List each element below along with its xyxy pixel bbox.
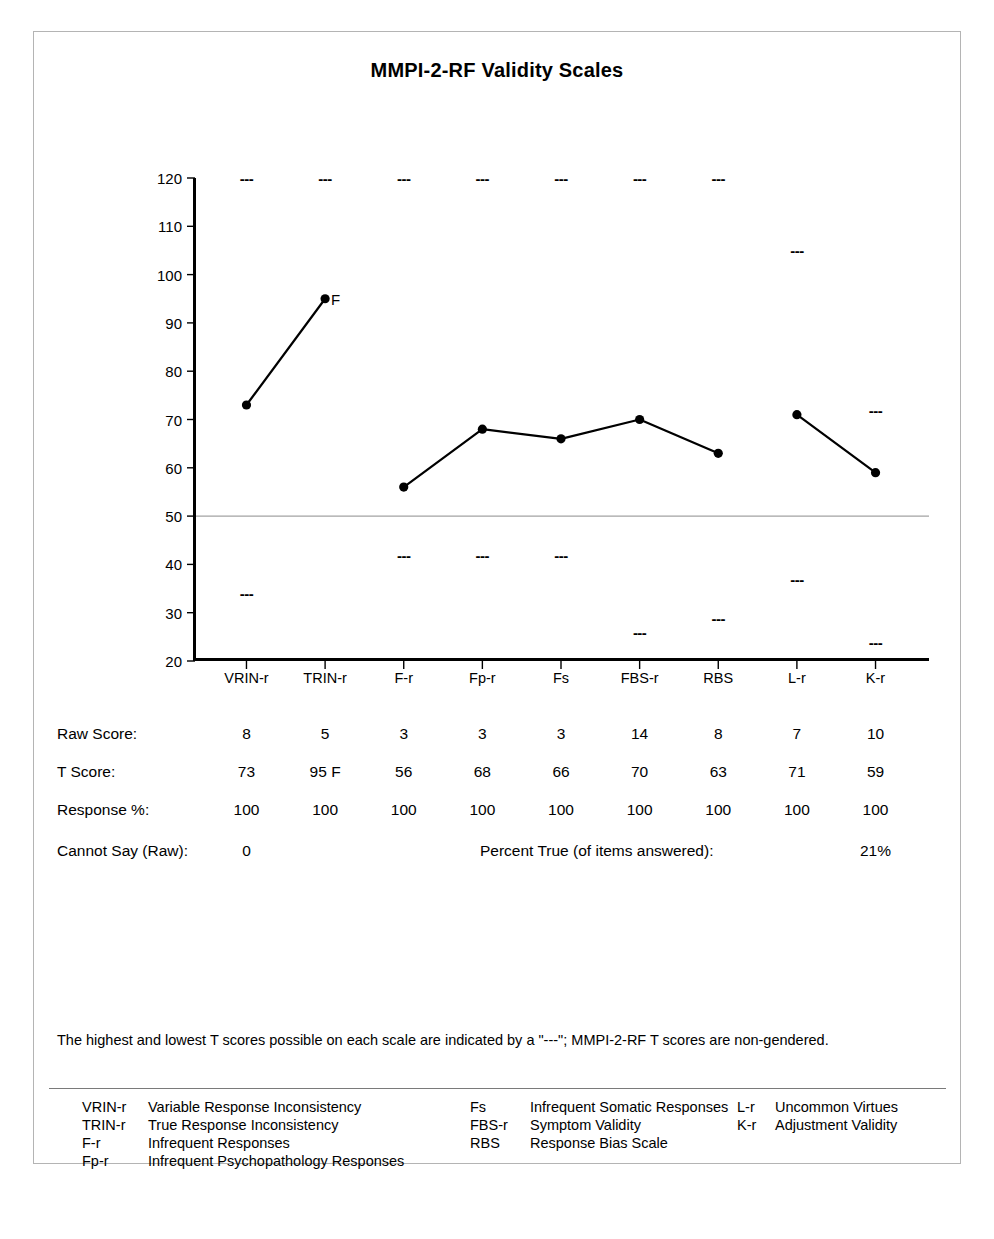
min-score-dash-marker: --- — [712, 610, 726, 625]
table-cell: 71 — [788, 763, 805, 781]
data-point-marker — [635, 415, 644, 424]
x-axis-label-fp-r: Fp-r — [469, 670, 496, 686]
y-axis-tick-label: 60 — [142, 459, 182, 476]
table-cell: 3 — [399, 725, 408, 743]
axes-group — [193, 178, 929, 661]
scale-legend: VRIN-rVariable Response InconsistencyTRI… — [49, 1098, 946, 1170]
data-point-marker — [792, 410, 801, 419]
table-cell: 100 — [548, 801, 574, 819]
legend-scale-name: Infrequent Responses — [148, 1134, 290, 1152]
data-point-marker — [871, 468, 880, 477]
table-cell: 100 — [784, 801, 810, 819]
table-cell: 100 — [234, 801, 260, 819]
x-axis-label-rbs: RBS — [703, 670, 733, 686]
y-axis-tick-label: 40 — [142, 556, 182, 573]
data-line-group — [246, 299, 875, 487]
x-axis-label-vrin-r: VRIN-r — [224, 670, 268, 686]
row-label-t-score: T Score: — [57, 763, 115, 781]
max-score-dash-marker: --- — [240, 171, 254, 186]
page-title: MMPI-2-RF Validity Scales — [34, 59, 960, 82]
min-score-dash-marker: --- — [476, 547, 490, 562]
row-label-response-percent: Response %: — [57, 801, 149, 819]
table-cell: 10 — [867, 725, 884, 743]
legend-divider — [49, 1088, 946, 1089]
legend-item: Fp-rInfrequent Psychopathology Responses — [82, 1152, 404, 1170]
legend-scale-name: True Response Inconsistency — [148, 1116, 338, 1134]
table-cell: 5 — [321, 725, 330, 743]
legend-abbreviation: Fp-r — [82, 1152, 148, 1170]
data-point-group — [242, 294, 880, 492]
table-cell: 3 — [557, 725, 566, 743]
chart-plot-area: 1201101009080706050403020 --------------… — [193, 178, 929, 661]
data-point-marker — [714, 449, 723, 458]
legend-column-3: L-rUncommon VirtuesK-rAdjustment Validit… — [737, 1098, 898, 1134]
data-point-marker — [399, 483, 408, 492]
percent-true-value: 21% — [860, 842, 891, 860]
point-annotation-label: F — [331, 290, 340, 307]
data-line-segment — [797, 415, 876, 473]
table-cell: 3 — [478, 725, 487, 743]
table-cell: 100 — [627, 801, 653, 819]
table-cell: 68 — [474, 763, 491, 781]
x-axis-label-trin-r: TRIN-r — [303, 670, 347, 686]
table-cell: 100 — [312, 801, 338, 819]
table-cell: 8 — [242, 725, 251, 743]
legend-abbreviation: Fs — [470, 1098, 530, 1116]
x-axis-label-k-r: K-r — [866, 670, 885, 686]
legend-scale-name: Adjustment Validity — [775, 1116, 897, 1134]
max-score-dash-marker: --- — [554, 171, 568, 186]
y-axis-tick-label: 90 — [142, 314, 182, 331]
legend-scale-name: Uncommon Virtues — [775, 1098, 898, 1116]
data-point-marker — [242, 400, 251, 409]
legend-scale-name: Infrequent Somatic Responses — [530, 1098, 728, 1116]
max-score-dash-marker: --- — [633, 171, 647, 186]
data-point-marker — [478, 425, 487, 434]
max-score-dash-marker: --- — [397, 171, 411, 186]
legend-item: K-rAdjustment Validity — [737, 1116, 898, 1134]
data-point-marker — [321, 294, 330, 303]
legend-abbreviation: TRIN-r — [82, 1116, 148, 1134]
x-axis-label-fs: Fs — [553, 670, 569, 686]
y-axis-tick-label: 120 — [142, 170, 182, 187]
percent-true-label: Percent True (of items answered): — [480, 842, 713, 860]
row-label-raw-score: Raw Score: — [57, 725, 137, 743]
min-score-dash-marker: --- — [397, 547, 411, 562]
max-score-dash-marker: --- — [712, 171, 726, 186]
axis-ticks-group — [187, 178, 876, 669]
table-cell: 8 — [714, 725, 723, 743]
legend-abbreviation: FBS-r — [470, 1116, 530, 1134]
table-cell: 59 — [867, 763, 884, 781]
legend-item: F-rInfrequent Responses — [82, 1134, 404, 1152]
legend-item: TRIN-rTrue Response Inconsistency — [82, 1116, 404, 1134]
legend-item: RBSResponse Bias Scale — [470, 1134, 728, 1152]
legend-scale-name: Variable Response Inconsistency — [148, 1098, 361, 1116]
table-cell: 7 — [793, 725, 802, 743]
min-score-dash-marker: --- — [554, 547, 568, 562]
y-axis-tick-label: 100 — [142, 266, 182, 283]
table-cell: 100 — [469, 801, 495, 819]
cannot-say-value: 0 — [242, 842, 251, 860]
y-axis-tick-label: 30 — [142, 604, 182, 621]
row-label-cannot-say: Cannot Say (Raw): — [57, 842, 188, 860]
x-axis-label-fbs-r: FBS-r — [621, 670, 659, 686]
y-axis-tick-label: 20 — [142, 653, 182, 670]
legend-scale-name: Symptom Validity — [530, 1116, 641, 1134]
y-axis-tick-label: 110 — [142, 218, 182, 235]
table-cell: 56 — [395, 763, 412, 781]
data-point-marker — [556, 434, 565, 443]
table-cell: 95 F — [310, 763, 341, 781]
data-line-segment — [404, 420, 719, 488]
min-score-dash-marker: --- — [869, 634, 883, 649]
table-cell: 14 — [631, 725, 648, 743]
min-score-dash-marker: --- — [240, 586, 254, 601]
legend-column-1: VRIN-rVariable Response InconsistencyTRI… — [82, 1098, 404, 1170]
x-axis-label-f-r: F-r — [394, 670, 413, 686]
table-row-cannot-say: Cannot Say (Raw): 0 Percent True (of ite… — [34, 842, 960, 864]
legend-item: FBS-rSymptom Validity — [470, 1116, 728, 1134]
table-cell: 73 — [238, 763, 255, 781]
table-cell: 100 — [391, 801, 417, 819]
legend-abbreviation: L-r — [737, 1098, 775, 1116]
legend-abbreviation: VRIN-r — [82, 1098, 148, 1116]
chart-svg — [193, 178, 929, 661]
y-axis-tick-label: 80 — [142, 363, 182, 380]
